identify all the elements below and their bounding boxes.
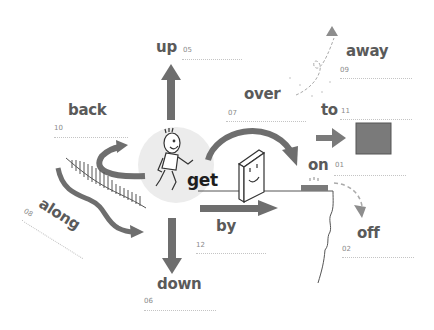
destination-box-icon [356, 123, 391, 154]
particle-up-number: 05 [183, 47, 192, 54]
particle-off-answer-line[interactable] [342, 257, 414, 258]
off-arrow-icon [334, 183, 366, 218]
particle-back-answer-line[interactable] [54, 137, 128, 138]
book-character-icon [239, 150, 264, 202]
particle-to-number: 11 [341, 108, 350, 115]
particle-on-answer-line[interactable] [334, 175, 406, 176]
away-arrow-icon [279, 26, 338, 97]
particle-off-number: 02 [342, 246, 351, 253]
particle-down-label: down [157, 277, 201, 292]
up-arrow-icon [161, 64, 181, 120]
particle-over-label: over [244, 87, 280, 102]
particle-to-answer-line[interactable] [340, 119, 412, 120]
particle-by-number: 12 [196, 242, 205, 249]
particle-away-number: 09 [340, 67, 349, 74]
by-arrow-icon [200, 200, 278, 216]
particle-on-number: 01 [335, 162, 344, 169]
particle-by-answer-line[interactable] [196, 253, 266, 254]
particle-away-answer-line[interactable] [340, 78, 412, 79]
particle-over-number: 07 [228, 110, 237, 117]
sparkle-icon [310, 177, 318, 181]
particle-on-label: on [308, 158, 328, 173]
particle-by-label: by [216, 219, 236, 234]
on-block-icon [301, 185, 328, 191]
particle-off-label: off [357, 226, 379, 241]
to-arrow-icon [316, 128, 346, 148]
particle-back-label: back [68, 103, 107, 118]
particle-to-label: to [321, 103, 338, 118]
particle-up-label: up [156, 40, 177, 55]
particle-over-answer-line[interactable] [226, 121, 306, 122]
riverbank-icon [66, 158, 146, 208]
back-arrow-icon [99, 140, 145, 176]
phrasal-verb-diagram: get up 05 back 10 over 07 away 09 to 11 … [0, 0, 434, 330]
center-verb-label: get [187, 172, 218, 189]
particle-down-answer-line[interactable] [144, 310, 216, 311]
particle-away-label: away [346, 44, 388, 59]
particle-down-number: 06 [144, 298, 153, 305]
particle-up-answer-line[interactable] [182, 59, 242, 60]
down-arrow-icon [162, 218, 182, 274]
particle-back-number: 10 [54, 125, 63, 132]
